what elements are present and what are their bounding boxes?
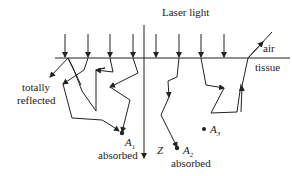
laser-light-label: Laser light (162, 7, 209, 18)
totally-label: totally (22, 82, 50, 93)
a2-absorbed-label: absorbed (171, 158, 211, 169)
z-axis-label: Z (157, 145, 163, 156)
a2-dot (175, 146, 179, 150)
a3-label: A3 (210, 124, 220, 138)
air-label: air (263, 43, 275, 54)
a3-dot (202, 127, 206, 131)
reflected-label: reflected (17, 95, 55, 106)
tissue-label: tissue (255, 62, 280, 73)
a1-dot (120, 131, 124, 135)
diagram-canvas: Laser light air tissue totally reflected… (0, 0, 292, 176)
a1-absorbed-label: absorbed (98, 150, 138, 161)
